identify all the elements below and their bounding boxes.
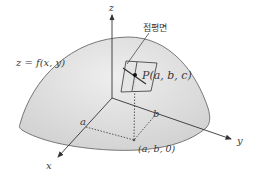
- base-point-dot: [133, 139, 136, 142]
- a-tick-label: a: [80, 116, 86, 127]
- surface: [19, 37, 209, 150]
- y-axis-label: y: [236, 135, 243, 146]
- x-axis-label: x: [46, 160, 52, 171]
- tangent-plane-label: 접평면: [143, 22, 167, 33]
- tangent-plane-diagram: z x y a b (a, b, 0) P(a, b, c) z = f(x, …: [0, 0, 258, 177]
- b-tick-label: b: [153, 108, 159, 119]
- base-point-label: (a, b, 0): [138, 143, 176, 154]
- point-p-label: P(a, b, c): [141, 69, 192, 82]
- z-axis-label: z: [108, 3, 114, 13]
- point-p-dot: [133, 73, 137, 77]
- surface-label: z = f(x, y): [15, 57, 65, 68]
